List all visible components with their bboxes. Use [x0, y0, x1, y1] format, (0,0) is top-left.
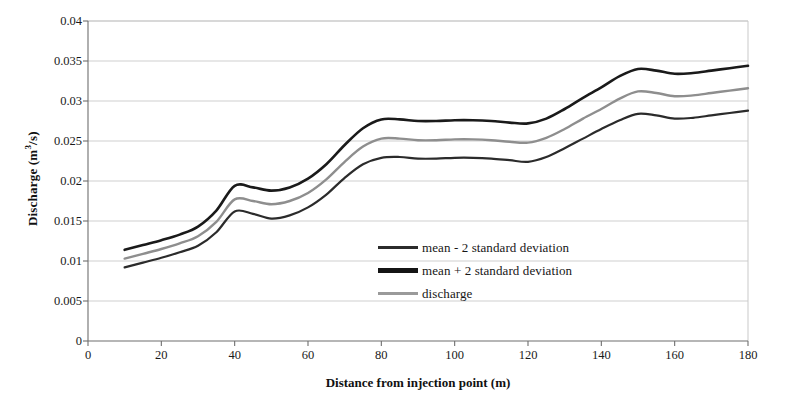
legend-item[interactable]: discharge: [378, 282, 648, 305]
legend-item-label: discharge: [422, 286, 472, 302]
legend-item[interactable]: mean - 2 standard deviation: [378, 236, 648, 259]
legend-item[interactable]: mean + 2 standard deviation: [378, 259, 648, 282]
legend-line-swatch: [378, 268, 418, 273]
legend-line-swatch: [378, 292, 418, 295]
series-line: [125, 88, 748, 258]
plot-area: [0, 0, 790, 411]
legend-item-label: mean + 2 standard deviation: [422, 263, 572, 279]
chart-figure: Discharge (m3/s) 00.0050.010.0150.020.02…: [0, 0, 790, 411]
chart-legend: mean - 2 standard deviationmean + 2 stan…: [378, 236, 648, 305]
legend-line-swatch: [378, 246, 418, 249]
legend-item-label: mean - 2 standard deviation: [422, 240, 569, 256]
x-axis-title: Distance from injection point (m): [88, 375, 748, 391]
